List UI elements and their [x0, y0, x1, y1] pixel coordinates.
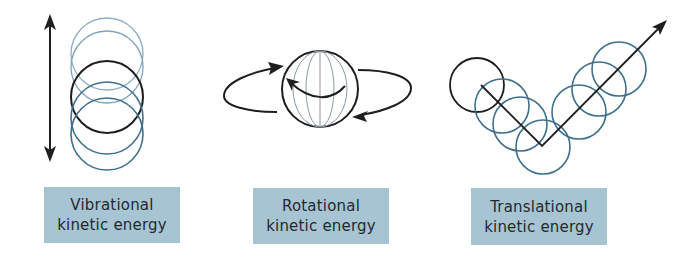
translational-label-line2: kinetic energy [484, 217, 594, 237]
vibrational-label-line1: Vibrational [70, 195, 153, 215]
rotational-label-line2: kinetic energy [266, 216, 376, 236]
translational-label: Translational kinetic energy [471, 188, 607, 245]
rotational-illustration [224, 51, 411, 127]
rotating-sphere-icon [282, 51, 358, 127]
rotational-label: Rotational kinetic energy [253, 188, 389, 244]
direction-arrow-icon [481, 20, 667, 146]
translational-illustration [450, 20, 667, 174]
vibrational-illustration [44, 14, 143, 170]
rotational-label-line1: Rotational [282, 196, 360, 216]
vibrational-label: Vibrational kinetic energy [44, 187, 180, 243]
circular-rotation-arrows-icon [224, 62, 411, 122]
double-headed-vertical-arrow-icon [44, 14, 56, 162]
vibrational-label-line2: kinetic energy [57, 215, 167, 235]
moving-circles-path-icon [450, 42, 646, 174]
stacked-oscillating-circles-icon [71, 18, 143, 170]
translational-label-line1: Translational [490, 197, 588, 217]
